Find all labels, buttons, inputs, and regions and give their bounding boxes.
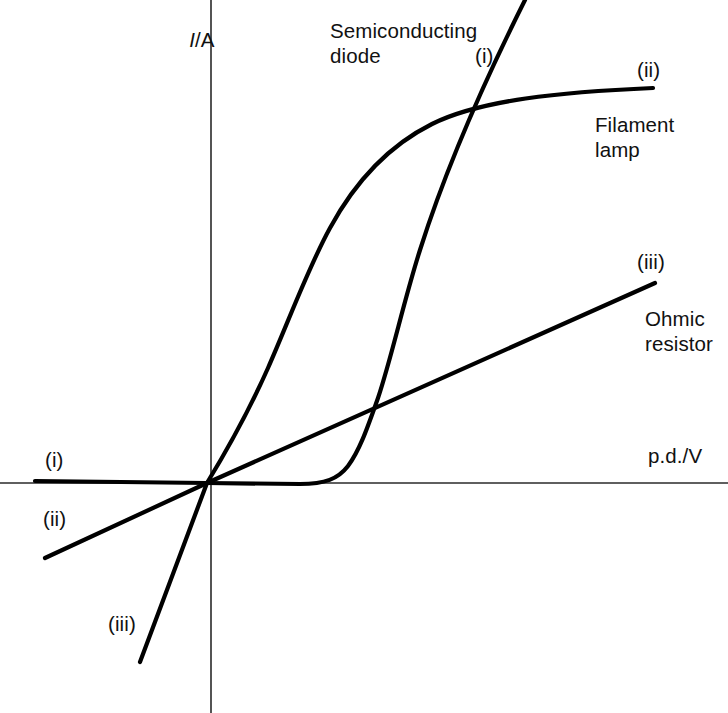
marker-left-ii: (ii) [43,506,66,531]
plot-canvas [0,0,728,713]
x-axis-label: p.d./V [648,443,702,468]
label-ohmic-resistor: Ohmic resistor [645,306,713,356]
y-axis-label: I/A [166,2,215,77]
curve-ohmic-resistor [45,283,655,558]
curve-semiconducting-diode [35,0,525,484]
curve-filament-lamp [207,88,653,483]
label-filament-lamp: Filament lamp [595,112,674,162]
marker-semiconducting-diode: (i) [475,43,494,68]
iv-characteristics-figure: I/A p.d./V Semiconducting diode (i) (ii)… [0,0,728,713]
marker-left-iii: (iii) [108,611,136,636]
marker-filament-lamp-top: (ii) [637,57,660,82]
y-axis-unit: /A [195,28,215,51]
marker-ohmic-resistor-top: (iii) [637,249,665,274]
marker-left-i: (i) [45,447,64,472]
label-semiconducting-diode: Semiconducting diode [330,18,477,68]
